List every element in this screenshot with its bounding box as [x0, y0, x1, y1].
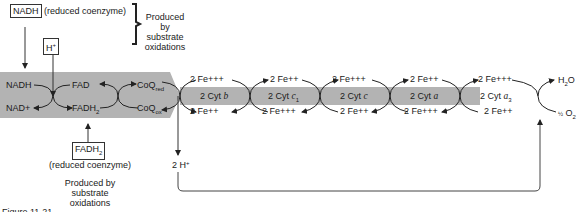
svg-text:2 Cyt b: 2 Cyt b [200, 91, 229, 101]
svg-text:½ O2: ½ O2 [558, 108, 577, 120]
svg-text:2 Fe+++: 2 Fe+++ [332, 74, 366, 84]
svg-text:2 Fe+++: 2 Fe+++ [262, 106, 296, 116]
svg-text:2 Fe++: 2 Fe++ [270, 74, 299, 84]
svg-text:2 Cyt c: 2 Cyt c [340, 91, 369, 101]
svg-text:NADH: NADH [6, 80, 32, 90]
svg-text:2 H+: 2 H+ [172, 160, 190, 170]
svg-text:2 Fe++: 2 Fe++ [340, 106, 369, 116]
svg-text:2 Fe+++: 2 Fe+++ [404, 106, 438, 116]
svg-text:2 Fe++: 2 Fe++ [484, 106, 513, 116]
svg-text:2 Cyt a3: 2 Cyt a3 [480, 91, 512, 103]
svg-text:NAD+: NAD+ [6, 103, 30, 113]
bracket-note: Produced by substrate oxidations [140, 12, 190, 52]
svg-text:2 Fe++: 2 Fe++ [190, 106, 219, 116]
svg-text:2 Fe++: 2 Fe++ [410, 74, 439, 84]
svg-text:2 Cyt a: 2 Cyt a [410, 91, 439, 101]
proton-loop [178, 120, 540, 191]
nadh-box: NADH [10, 4, 42, 18]
figure-caption: Figure 11-21 [2, 207, 52, 212]
produced-note: Produced by substrate oxidations [55, 178, 125, 208]
svg-text:2 Fe+++: 2 Fe+++ [478, 74, 512, 84]
nadh-note: (reduced coenzyme) [44, 6, 126, 16]
h-plus-box: H+ [43, 38, 59, 55]
fadh2-box: FADH2 [72, 142, 105, 160]
svg-text:FAD: FAD [72, 80, 90, 90]
fadh2-note: (reduced coenzyme) [40, 160, 140, 170]
bracket [132, 4, 140, 44]
svg-text:2 Fe+++: 2 Fe+++ [190, 74, 224, 84]
svg-text:H2O: H2O [558, 75, 575, 87]
